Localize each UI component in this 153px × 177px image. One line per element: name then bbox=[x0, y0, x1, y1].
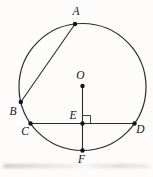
label-f: F bbox=[77, 153, 86, 165]
point-o-dot bbox=[80, 84, 84, 88]
label-o: O bbox=[76, 69, 85, 81]
label-b: B bbox=[9, 105, 16, 117]
label-d: D bbox=[135, 123, 145, 135]
label-e: E bbox=[68, 109, 76, 121]
segment-ab bbox=[21, 24, 75, 102]
point-b-dot bbox=[19, 100, 23, 104]
point-c-dot bbox=[28, 121, 32, 125]
label-a: A bbox=[71, 5, 80, 17]
figure-svg: OABCDEF bbox=[0, 0, 153, 177]
point-e-dot bbox=[80, 121, 84, 125]
point-a-dot bbox=[73, 22, 77, 26]
label-c: C bbox=[21, 125, 29, 137]
geometry-figure: OABCDEF bbox=[0, 0, 153, 177]
